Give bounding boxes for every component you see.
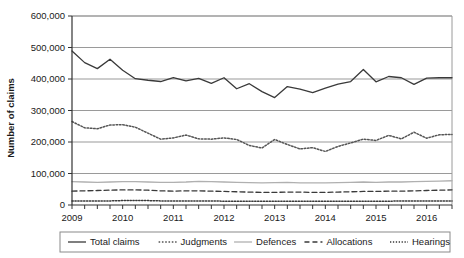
legend-label-total-claims: Total claims — [90, 236, 140, 247]
legend-label-defences: Defences — [256, 236, 296, 247]
chart-legend: Total claimsJudgmentsDefencesAllocations… — [60, 232, 450, 252]
gridlines — [72, 16, 452, 174]
y-tick-label: 200,000 — [31, 136, 65, 147]
series-line-judgments — [72, 122, 452, 152]
legend-label-judgments: Judgments — [181, 236, 228, 247]
x-tick-label: 2011 — [163, 212, 183, 223]
y-axis-title: Number of claims — [5, 78, 16, 158]
legend-label-hearings: Hearings — [412, 236, 450, 247]
series-line-defences — [72, 181, 452, 183]
x-tick-label: 2012 — [213, 212, 234, 223]
x-tick-label: 2009 — [61, 212, 82, 223]
series-line-hearings — [72, 201, 452, 202]
series-line-allocations — [72, 190, 452, 193]
x-tick-label: 2013 — [264, 212, 285, 223]
data-series-group — [72, 51, 452, 201]
y-tick-label: 500,000 — [31, 42, 65, 53]
y-tick-label: 400,000 — [31, 73, 65, 84]
x-tick-label: 2016 — [416, 212, 437, 223]
y-axis-ticks: 0100,000200,000300,000400,000500,000600,… — [31, 10, 72, 210]
chart-container: 0100,000200,000300,000400,000500,000600,… — [0, 0, 464, 258]
series-line-total-claims — [72, 51, 452, 98]
y-tick-label: 300,000 — [31, 105, 65, 116]
x-tick-label: 2010 — [112, 212, 133, 223]
y-tick-label: 0 — [60, 199, 65, 210]
x-tick-label: 2015 — [365, 212, 386, 223]
y-tick-label: 600,000 — [31, 10, 65, 21]
line-chart: 0100,000200,000300,000400,000500,000600,… — [0, 0, 464, 258]
x-axis-ticks: 20092010201120122013201420152016 — [61, 205, 452, 223]
y-tick-label: 100,000 — [31, 168, 65, 179]
x-tick-label: 2014 — [315, 212, 336, 223]
legend-label-allocations: Allocations — [326, 236, 372, 247]
